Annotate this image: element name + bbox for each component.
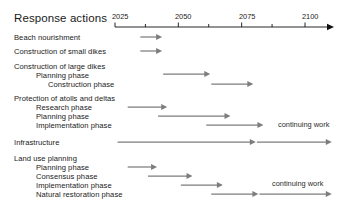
timeline-bar (140, 48, 162, 54)
bars-layer (0, 0, 346, 209)
timeline-bar (211, 191, 258, 197)
timeline-bar (206, 122, 263, 128)
timeline-bar (128, 164, 157, 170)
timeline-bar (128, 104, 168, 110)
timeline-chart: Response actions 2025 2050 2075 2100 Bea… (0, 0, 346, 209)
timeline-bar (158, 113, 230, 119)
timeline-bar (257, 139, 332, 145)
timeline-bar (118, 139, 256, 145)
timeline-bar (163, 71, 210, 77)
timeline-bar (211, 81, 253, 87)
timeline-bar (181, 182, 223, 188)
timeline-bar (259, 191, 331, 197)
timeline-bar (140, 34, 162, 40)
timeline-bar (148, 173, 193, 179)
